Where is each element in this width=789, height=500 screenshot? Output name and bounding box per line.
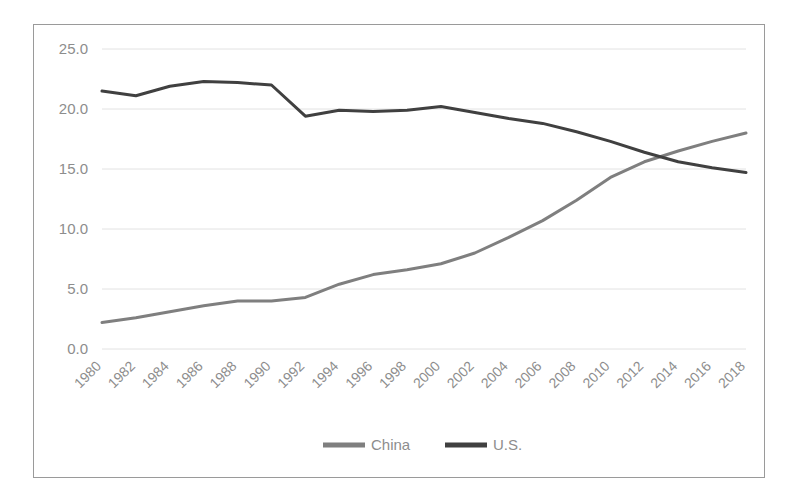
chart-container: 0.05.010.015.020.025.0 19801982198419861… (33, 24, 765, 478)
x-tick-label: 1986 (172, 358, 205, 391)
x-axis-tick-labels: 1980198219841986198819901992199419961998… (71, 358, 748, 391)
legend-label-u-s[interactable]: U.S. (493, 436, 522, 453)
x-tick-label: 2002 (444, 358, 477, 391)
x-tick-label: 2016 (681, 358, 714, 391)
x-tick-label: 1982 (105, 358, 138, 391)
x-tick-label: 1992 (274, 358, 307, 391)
y-tick-label: 5.0 (67, 280, 88, 297)
x-tick-label: 1998 (376, 358, 409, 391)
x-tick-label: 1988 (206, 358, 239, 391)
x-tick-label: 2014 (647, 358, 680, 391)
gridlines (102, 49, 746, 349)
x-tick-label: 1994 (308, 358, 341, 391)
line-chart: 0.05.010.015.020.025.0 19801982198419861… (34, 25, 764, 477)
x-tick-label: 2004 (478, 358, 511, 391)
x-tick-label: 1996 (342, 358, 375, 391)
legend-label-china[interactable]: China (371, 436, 411, 453)
y-tick-label: 15.0 (59, 160, 88, 177)
y-axis-tick-labels: 0.05.010.015.020.025.0 (59, 40, 88, 357)
x-tick-label: 2010 (579, 358, 612, 391)
x-tick-label: 2018 (715, 358, 748, 391)
x-tick-label: 2000 (410, 358, 443, 391)
x-tick-label: 1980 (71, 358, 104, 391)
x-tick-label: 2012 (613, 358, 646, 391)
y-tick-label: 20.0 (59, 100, 88, 117)
y-tick-label: 10.0 (59, 220, 88, 237)
y-tick-label: 25.0 (59, 40, 88, 57)
y-tick-label: 0.0 (67, 340, 88, 357)
x-tick-label: 2008 (545, 358, 578, 391)
series-lines (102, 81, 746, 322)
chart-legend: ChinaU.S. (323, 436, 522, 453)
x-tick-label: 1990 (240, 358, 273, 391)
x-tick-label: 2006 (511, 358, 544, 391)
series-line-china (102, 133, 746, 323)
x-tick-label: 1984 (139, 358, 172, 391)
